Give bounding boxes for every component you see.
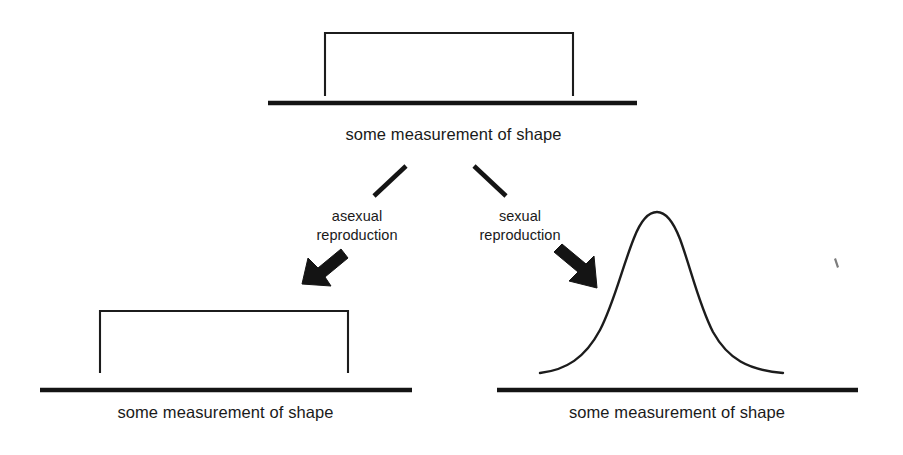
branch-label-sexual: sexual reproduction	[468, 207, 572, 244]
parent-distribution-caption: some measurement of shape	[315, 125, 592, 144]
sexual-arrow-stem	[474, 166, 506, 196]
asexual-distribution	[40, 311, 412, 390]
figure-root: some measurement of shape asexual reprod…	[0, 0, 903, 455]
branch-label-asexual-line2: reproduction	[305, 226, 409, 245]
sexual-bell-curve	[540, 212, 783, 373]
branch-label-asexual-line1: asexual	[305, 207, 409, 226]
parent-uniform-curve	[325, 33, 573, 96]
sexual-distribution-caption: some measurement of shape	[493, 403, 861, 422]
branch-label-sexual-line2: reproduction	[468, 226, 572, 245]
asexual-distribution-caption: some measurement of shape	[37, 403, 414, 422]
diagram-canvas	[0, 0, 903, 455]
branch-label-asexual: asexual reproduction	[305, 207, 409, 244]
branch-label-sexual-line1: sexual	[468, 207, 572, 226]
asexual-arrow-head	[302, 249, 348, 286]
sexual-arrow-head	[554, 244, 597, 288]
scan-speck	[834, 258, 839, 268]
asexual-arrow-stem	[374, 166, 406, 196]
parent-distribution	[268, 33, 637, 103]
asexual-uniform-curve	[100, 311, 348, 373]
